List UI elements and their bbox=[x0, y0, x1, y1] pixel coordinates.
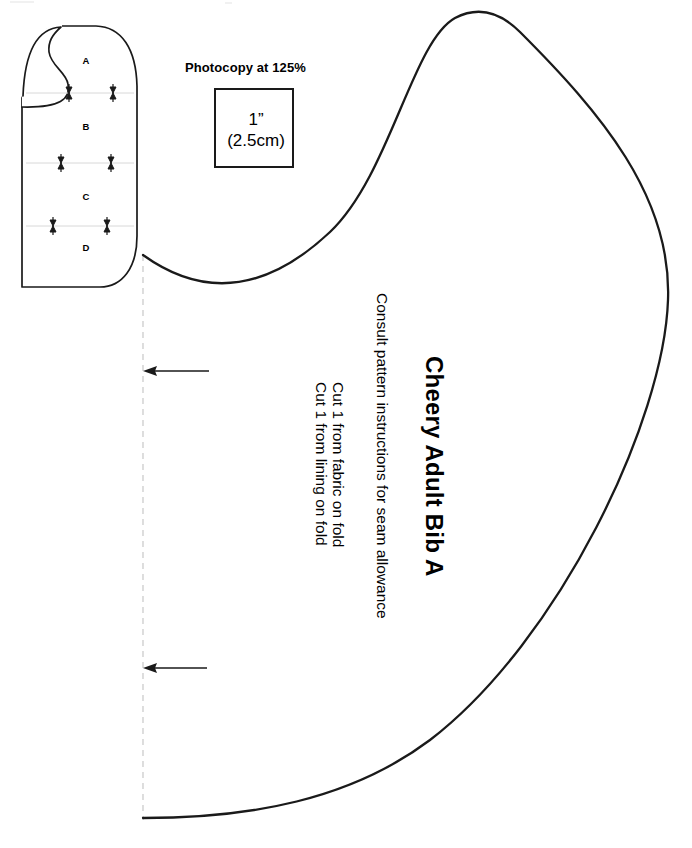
seam-allowance-instruction: Consult pattern instructions for seam al… bbox=[373, 293, 391, 619]
mini-section-label-b: B bbox=[78, 122, 94, 132]
mini-section-label-a: A bbox=[78, 56, 94, 66]
scan-artifacts bbox=[10, 2, 232, 3]
cut-instruction-fabric: Cut 1 from fabric on fold bbox=[329, 382, 347, 547]
scale-box-inch-label: 1” bbox=[248, 109, 263, 130]
pattern-sheet: Photocopy at 125% 1” (2.5cm) A B C D Che… bbox=[0, 0, 692, 848]
mini-section-label-d: D bbox=[78, 243, 94, 253]
photocopy-scale-heading: Photocopy at 125% bbox=[185, 61, 306, 75]
fold-arrow-lower bbox=[143, 663, 207, 673]
cut-instruction-lining: Cut 1 from lining on fold bbox=[312, 382, 330, 546]
mini-section-label-c: C bbox=[78, 192, 94, 202]
scale-reference-box: 1” (2.5cm) bbox=[214, 88, 294, 168]
page-title: Cheery Adult Bib A bbox=[420, 356, 448, 577]
scale-box-metric-label: (2.5cm) bbox=[227, 130, 285, 151]
fold-arrow-upper bbox=[143, 366, 209, 376]
